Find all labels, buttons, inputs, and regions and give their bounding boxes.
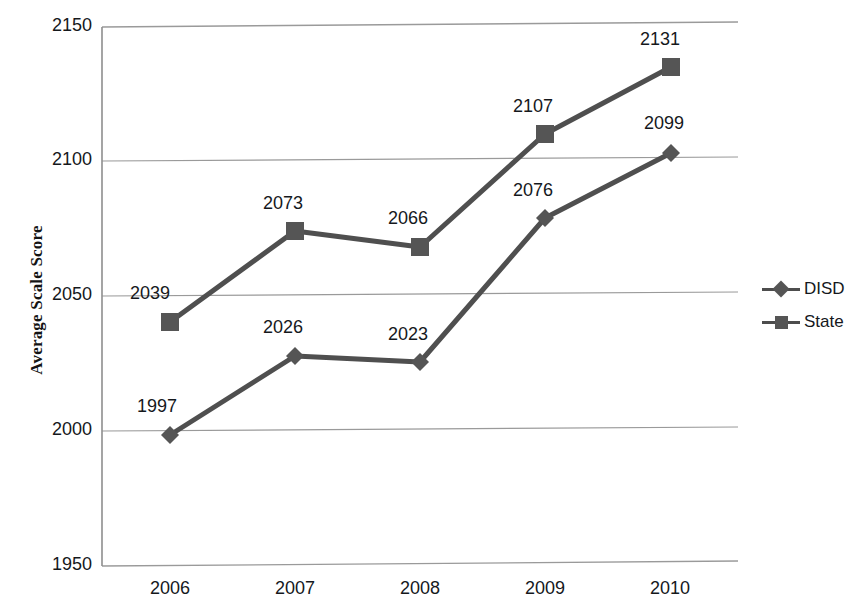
plot-area (0, 0, 857, 612)
disd-label-2008: 2023 (368, 324, 448, 345)
state-label-2006: 2039 (110, 283, 190, 304)
state-label-2010: 2131 (620, 29, 700, 50)
legend-label-disd: DISD (800, 279, 845, 299)
chart-legend: DISD State (762, 272, 857, 338)
line-chart: Average Scale Score 2150 2100 2050 2000 … (0, 0, 857, 612)
legend-item-state[interactable]: State (762, 305, 857, 338)
disd-label-2007: 2026 (243, 317, 323, 338)
legend-item-disd[interactable]: DISD (762, 272, 857, 305)
disd-label-2009: 2076 (493, 180, 573, 201)
series-state (161, 58, 680, 331)
disd-label-2010: 2099 (624, 113, 704, 134)
disd-label-2006: 1997 (117, 396, 197, 417)
state-markers (161, 58, 680, 331)
state-label-2008: 2066 (368, 208, 448, 229)
state-label-2007: 2073 (243, 193, 323, 214)
square-marker-icon (762, 312, 800, 332)
state-label-2009: 2107 (493, 96, 573, 117)
diamond-marker-icon (762, 279, 800, 299)
legend-label-state: State (800, 312, 844, 332)
gridlines (102, 22, 738, 566)
